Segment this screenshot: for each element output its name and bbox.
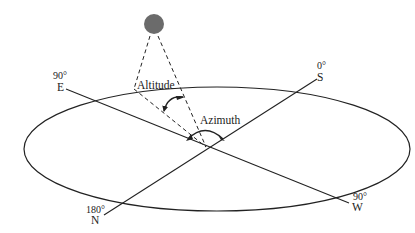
- north-letter-label: N: [91, 214, 100, 226]
- azimuth-arc-icon: [188, 131, 223, 140]
- south-degree-label: 0°: [317, 60, 326, 71]
- sun-icon: [144, 14, 164, 34]
- east-west-axis: [66, 89, 349, 203]
- west-letter-label: W: [352, 201, 363, 213]
- altitude-label: Altitude: [137, 79, 175, 91]
- altitude-arc-icon: [164, 97, 183, 111]
- azimuth-label: Azimuth: [200, 114, 240, 126]
- altitude-arc-start-arrow-icon: [176, 96, 185, 100]
- south-letter-label: S: [317, 71, 323, 83]
- altitude-azimuth-diagram: Altitude Azimuth 90° E 0° S 180° N 90° W: [0, 0, 415, 233]
- east-degree-label: 90°: [53, 70, 67, 81]
- east-letter-label: E: [57, 81, 64, 93]
- north-south-axis: [104, 79, 317, 215]
- ground-projection-line: [134, 89, 206, 147]
- sun-projection-line-right: [158, 36, 206, 147]
